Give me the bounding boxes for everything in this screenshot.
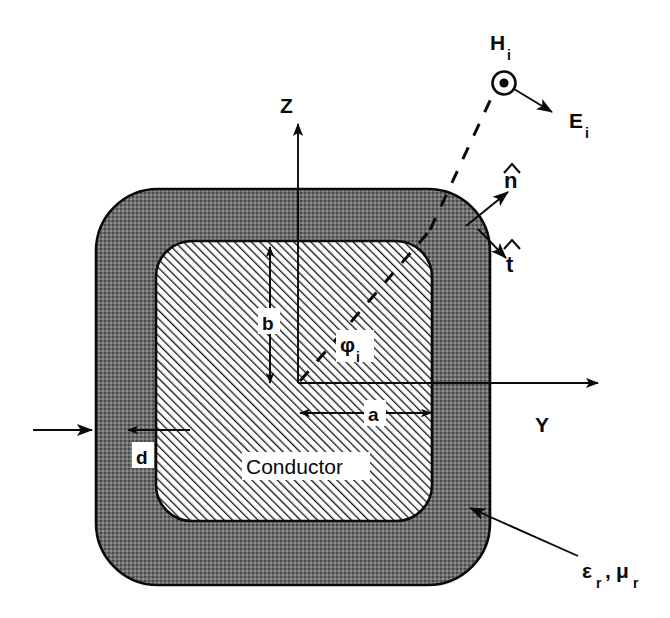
incidence-angle-label: φ [340,333,355,356]
e-field-label: E [569,109,583,132]
normal-vector-label-group: n [504,164,520,193]
tangent-vector-label: t [506,252,514,277]
incidence-angle-subscript: i [356,349,360,365]
dimension-b-label: b [262,313,274,334]
z-axis-label: Z [280,94,293,117]
permeability-subscript: r [633,575,639,591]
material-callout-label-group: ε r , μ r [582,559,639,591]
normal-vector-label: n [504,168,517,193]
figure-root: Z Y H i E i n t φ i b a d Conductor ε r [0,0,670,618]
permittivity-subscript: r [596,575,602,591]
conductor-cross-section-diagram: Z Y H i E i n t φ i b a d Conductor ε r [0,0,670,618]
permeability-symbol: μ [616,559,629,582]
h-field-out-of-page-icon [493,72,516,95]
material-callout-separator: , [605,559,611,582]
y-axis-label: Y [535,413,549,436]
tangent-vector-hat-accent [504,240,520,249]
dimension-a-label: a [368,404,379,425]
e-field-subscript: i [585,125,589,141]
dimension-d-label: d [136,447,148,468]
e-field-arrow-line [514,89,552,112]
h-field-subscript: i [507,47,511,63]
circled-dot-center [499,78,508,87]
tangent-vector-label-group: t [504,240,520,277]
h-field-label: H [490,31,505,54]
permittivity-symbol: ε [582,559,592,582]
conductor-region-label: Conductor [246,455,343,478]
e-field-arrow [514,89,552,112]
